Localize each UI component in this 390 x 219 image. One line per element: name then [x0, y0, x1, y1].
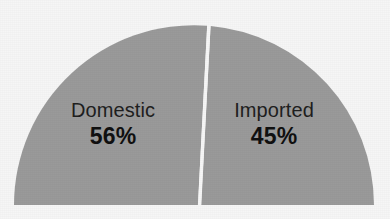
pie-label-domestic-value: 56%: [34, 125, 192, 148]
pie-label-imported-name: Imported: [200, 100, 348, 120]
semicircle-pie-chart: Domestic 56% Imported 45%: [0, 0, 390, 219]
pie-label-imported-value: 45%: [200, 125, 348, 148]
pie-label-imported: Imported 45%: [200, 100, 348, 148]
pie-label-domestic-name: Domestic: [34, 100, 192, 120]
pie-label-domestic: Domestic 56%: [34, 100, 192, 148]
